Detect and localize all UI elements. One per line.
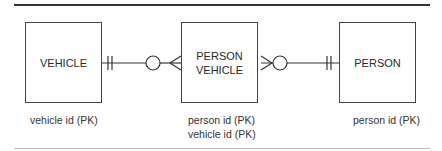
attributes-person-vehicle: person id (PK) vehicle id (PK) xyxy=(188,113,256,141)
zero-circle-icon xyxy=(146,56,160,70)
attribute-vehicle-id: vehicle id (PK) xyxy=(30,113,98,127)
crows-foot-icon xyxy=(261,56,272,63)
bottom-rule xyxy=(14,148,430,149)
zero-circle-icon xyxy=(273,56,287,70)
crows-foot-icon xyxy=(170,56,181,63)
attribute-vehicle-id: vehicle id (PK) xyxy=(188,127,256,141)
attribute-person-id: person id (PK) xyxy=(188,113,256,127)
attribute-person-id: person id (PK) xyxy=(353,113,420,127)
